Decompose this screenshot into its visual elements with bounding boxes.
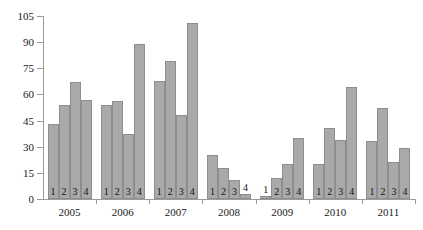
x-axis-year-label: 2005 (43, 207, 96, 218)
bar-quarter-label: 1 (207, 187, 218, 197)
bar (346, 87, 357, 199)
bar-quarter-label: 4 (187, 187, 198, 197)
bar (165, 61, 176, 199)
x-axis-group-separator (256, 199, 257, 204)
bar-quarter-label: 4 (399, 187, 410, 197)
bar-quarter-label: 1 (154, 187, 165, 197)
x-axis-year-label: 2010 (309, 207, 362, 218)
bar-quarter-label: 4 (134, 187, 145, 197)
bar-chart: 0153045607590105 12341234123412341234123… (0, 0, 423, 230)
bar-quarter-label: 3 (229, 187, 240, 197)
bar-quarter-label: 1 (313, 187, 324, 197)
bar-quarter-label: 4 (240, 183, 251, 193)
x-axis-group-separator (149, 199, 150, 204)
bar-quarter-label: 3 (176, 187, 187, 197)
x-axis-year-label: 2008 (202, 207, 255, 218)
x-axis-year-label: 2007 (149, 207, 202, 218)
bar-quarter-label: 2 (59, 187, 70, 197)
bar-quarter-label: 3 (123, 187, 134, 197)
y-axis-tick-label: 75 (4, 63, 34, 74)
bar-quarter-label: 2 (112, 187, 123, 197)
bar-quarter-label: 4 (293, 187, 304, 197)
bar-quarter-label: 3 (388, 187, 399, 197)
bar-quarter-label: 3 (70, 187, 81, 197)
bar (70, 82, 81, 199)
x-axis-group-separator (202, 199, 203, 204)
x-axis-group-separator (362, 199, 363, 204)
y-axis-tick-label: 15 (4, 167, 34, 178)
bar (260, 196, 271, 199)
bar-quarter-label: 1 (48, 187, 59, 197)
bar-quarter-label: 1 (366, 187, 377, 197)
bar-quarter-label: 4 (346, 187, 357, 197)
bar-quarter-label: 1 (101, 187, 112, 197)
x-axis-line (43, 199, 415, 200)
bar-quarter-label: 3 (282, 187, 293, 197)
y-axis-tick-label: 45 (4, 115, 34, 126)
y-axis-tick-label: 105 (4, 11, 34, 22)
bar (240, 194, 251, 199)
bar (154, 81, 165, 200)
bar-quarter-label: 2 (377, 187, 388, 197)
y-axis-tick-label: 0 (4, 194, 34, 205)
x-axis-group-separator (415, 199, 416, 204)
bar (59, 105, 70, 199)
x-axis-year-label: 2011 (362, 207, 415, 218)
plot-area: 1234123412341234123412341234 (43, 16, 415, 199)
x-axis-year-label: 2006 (96, 207, 149, 218)
bar-quarter-label: 4 (81, 187, 92, 197)
bar (134, 44, 145, 199)
bar (101, 105, 112, 199)
bar-quarter-label: 2 (165, 187, 176, 197)
y-axis-tick-label: 30 (4, 141, 34, 152)
x-axis-group-separator (96, 199, 97, 204)
bar-quarter-label: 2 (271, 187, 282, 197)
bar (112, 101, 123, 199)
bar-quarter-label: 2 (218, 187, 229, 197)
y-axis-tick-label: 60 (4, 89, 34, 100)
bar-quarter-label: 1 (260, 185, 271, 195)
bar-quarter-label: 3 (335, 187, 346, 197)
y-axis-tick (37, 199, 44, 200)
bar (187, 23, 198, 199)
x-axis-year-label: 2009 (256, 207, 309, 218)
x-axis-group-separator (309, 199, 310, 204)
bar-quarter-label: 2 (324, 187, 335, 197)
bar (81, 100, 92, 199)
y-axis-tick-label: 90 (4, 37, 34, 48)
